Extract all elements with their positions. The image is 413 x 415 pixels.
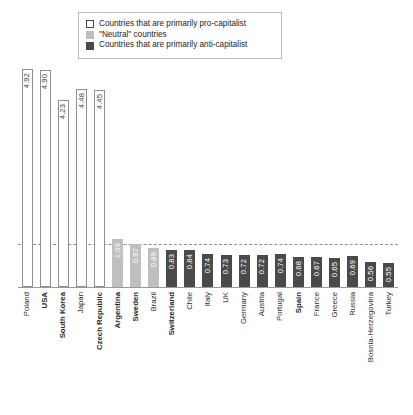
category-slot: Germany bbox=[235, 292, 253, 402]
bar-value-label: 0.97 bbox=[132, 248, 140, 263]
category-label: Switzerland bbox=[168, 292, 176, 335]
chart-root: Countries that are primarily pro-capital… bbox=[0, 0, 413, 415]
category-label: USA bbox=[41, 292, 49, 308]
bar-series: 4.924.904.234.484.451.090.970.890.830.84… bbox=[18, 58, 398, 287]
category-label: South Korea bbox=[59, 292, 67, 338]
category-slot: Brazil bbox=[145, 292, 163, 402]
bar-value-label: 0.55 bbox=[385, 267, 393, 282]
category-label: Turkey bbox=[385, 292, 393, 316]
bar: 0.97 bbox=[130, 244, 141, 287]
bar: 0.74 bbox=[202, 254, 213, 287]
bar-slot: 0.69 bbox=[344, 58, 362, 287]
category-label: Portugal bbox=[276, 292, 284, 321]
legend-item-neutral: "Neutral" countries bbox=[86, 31, 274, 40]
category-label: Poland bbox=[23, 292, 31, 316]
category-slot: Poland bbox=[18, 292, 36, 402]
category-label: Japan bbox=[77, 292, 85, 313]
bar: 0.65 bbox=[329, 258, 340, 287]
bar: 0.56 bbox=[365, 262, 376, 287]
bar: 0.83 bbox=[166, 250, 177, 287]
category-slot: Sweden bbox=[127, 292, 145, 402]
bar-slot: 1.09 bbox=[108, 58, 126, 287]
category-slot: Turkey bbox=[380, 292, 398, 402]
bar-value-label: 4.92 bbox=[23, 73, 31, 88]
bar-slot: 0.72 bbox=[253, 58, 271, 287]
legend-swatch-neutral-icon bbox=[86, 31, 94, 39]
category-slot: Portugal bbox=[271, 292, 289, 402]
legend-label-neutral: "Neutral" countries bbox=[99, 31, 167, 40]
bar-value-label: 0.69 bbox=[349, 260, 357, 275]
category-slot: Chile bbox=[181, 292, 199, 402]
bar-value-label: 0.84 bbox=[186, 254, 194, 269]
bar: 0.84 bbox=[184, 250, 195, 287]
category-slot: France bbox=[308, 292, 326, 402]
legend-item-pro-capitalist: Countries that are primarily pro-capital… bbox=[86, 20, 274, 29]
category-label: Argentina bbox=[114, 292, 122, 328]
bar-slot: 4.45 bbox=[90, 58, 108, 287]
bar: 0.68 bbox=[293, 257, 304, 287]
bar: 4.45 bbox=[94, 90, 105, 287]
category-label: Greece bbox=[331, 292, 339, 318]
bar-slot: 0.84 bbox=[181, 58, 199, 287]
category-label: Bosnia-Herzegovina bbox=[367, 292, 375, 362]
category-slot: Austria bbox=[253, 292, 271, 402]
legend-swatch-anti-icon bbox=[86, 42, 94, 50]
category-label: UK bbox=[222, 292, 230, 303]
bar: 0.69 bbox=[347, 256, 358, 287]
legend-swatch-pro-icon bbox=[86, 20, 94, 28]
bar-value-label: 0.56 bbox=[367, 266, 375, 281]
bar-value-label: 0.83 bbox=[168, 254, 176, 269]
bar-slot: 0.67 bbox=[308, 58, 326, 287]
bar-value-label: 0.74 bbox=[204, 258, 212, 273]
bar: 4.23 bbox=[58, 100, 69, 287]
category-slot: UK bbox=[217, 292, 235, 402]
category-slot: Italy bbox=[199, 292, 217, 402]
bar-slot: 0.68 bbox=[289, 58, 307, 287]
plot-area: 4.924.904.234.484.451.090.970.890.830.84… bbox=[18, 58, 398, 288]
legend-item-anti-capitalist: Countries that are primarily anti-capita… bbox=[86, 41, 274, 50]
bar-value-label: 0.67 bbox=[313, 261, 321, 276]
bar-value-label: 0.72 bbox=[240, 259, 248, 274]
bar: 4.48 bbox=[76, 89, 87, 287]
category-label: Italy bbox=[204, 292, 212, 306]
bar-value-label: 0.65 bbox=[331, 262, 339, 277]
bar: 0.55 bbox=[383, 263, 394, 287]
category-slot: Greece bbox=[326, 292, 344, 402]
bar-value-label: 0.68 bbox=[295, 261, 303, 276]
bar-value-label: 0.89 bbox=[150, 252, 158, 267]
bar-value-label: 4.48 bbox=[78, 93, 86, 108]
bar: 0.74 bbox=[275, 254, 286, 287]
legend-label-pro: Countries that are primarily pro-capital… bbox=[99, 20, 246, 29]
category-label: Chile bbox=[186, 292, 194, 310]
bar-value-label: 4.90 bbox=[41, 74, 49, 89]
bar-slot: 4.90 bbox=[36, 58, 54, 287]
bar-value-label: 1.09 bbox=[114, 243, 122, 258]
category-label: Russia bbox=[349, 292, 357, 316]
category-label: Germany bbox=[240, 292, 248, 324]
bar-value-label: 0.73 bbox=[222, 259, 230, 274]
bar-slot: 0.74 bbox=[271, 58, 289, 287]
category-slot: Russia bbox=[344, 292, 362, 402]
axis-baseline bbox=[18, 287, 398, 288]
category-slot: Argentina bbox=[108, 292, 126, 402]
bar-slot: 0.89 bbox=[145, 58, 163, 287]
bar-slot: 0.97 bbox=[127, 58, 145, 287]
bar: 0.73 bbox=[221, 255, 232, 287]
bar: 1.09 bbox=[112, 239, 123, 287]
bar-slot: 4.23 bbox=[54, 58, 72, 287]
bar-slot: 0.56 bbox=[362, 58, 380, 287]
legend-label-anti: Countries that are primarily anti-capita… bbox=[99, 41, 247, 50]
bar: 0.72 bbox=[257, 255, 268, 287]
bar: 0.72 bbox=[239, 255, 250, 287]
category-slot: Bosnia-Herzegovina bbox=[362, 292, 380, 402]
category-slot: Switzerland bbox=[163, 292, 181, 402]
category-slot: Japan bbox=[72, 292, 90, 402]
category-slot: Spain bbox=[289, 292, 307, 402]
bar-slot: 4.48 bbox=[72, 58, 90, 287]
bar: 4.92 bbox=[22, 69, 33, 287]
bar-value-label: 0.74 bbox=[277, 258, 285, 273]
category-label: Czech Republic bbox=[96, 292, 104, 350]
bar: 4.90 bbox=[40, 70, 51, 287]
bar-slot: 0.55 bbox=[380, 58, 398, 287]
bar-slot: 0.83 bbox=[163, 58, 181, 287]
